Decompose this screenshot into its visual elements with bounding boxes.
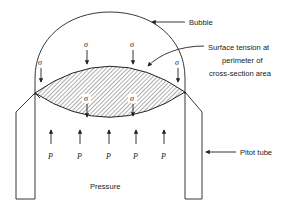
cross-section-area [35,66,185,117]
pressure-symbol: P [160,152,166,161]
surface-tension-label-line-2: perimeter of [222,56,263,65]
pitot-tube-left-wall [16,93,35,199]
sigma-symbol: σ [38,58,43,67]
pressure-symbol: P [105,152,111,161]
pressure-label: Pressure [90,182,120,191]
pitot-tube-label: Pitot tube [240,148,272,157]
bubble-label: Bubble [189,18,213,27]
pitot-tube-right-wall [185,92,202,199]
sigma-symbol: σ [175,58,180,67]
pressure-symbol: P [47,152,53,161]
diagram-canvas: σ σ σ σ σ σ P P P P P Pressure Bubble Su… [0,0,303,211]
pitot-bubble-diagram: σ σ σ σ σ σ P P P P P Pressure Bubble Su… [0,0,303,211]
pressure-symbol: P [132,152,138,161]
surface-tension-label-line-1: Surface tension at [208,43,270,52]
surface-tension-label-line-3: cross-section area [209,69,272,78]
sigma-symbol: σ [84,40,89,49]
pressure-symbol: P [76,152,82,161]
sigma-symbol: σ [130,40,135,49]
pressure-arrows [51,130,164,144]
